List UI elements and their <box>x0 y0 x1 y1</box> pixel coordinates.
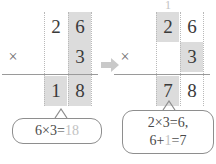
callout-line-text: 2×3=6, <box>148 115 188 130</box>
callout-line-faint: 18 <box>65 123 79 138</box>
multiplier-row: 3 <box>20 42 92 72</box>
multiplicand-tens: 2 <box>44 12 68 42</box>
multiplier-row: 3 <box>132 42 204 72</box>
multiplication-diagram: × 2 6 3 1 8 6×3=18 <box>0 0 216 164</box>
step-ones-panel: × 2 6 3 1 8 6×3=18 <box>4 0 104 164</box>
step-ones-sum-grid: × 2 6 3 1 8 <box>20 12 92 106</box>
product-ones: 8 <box>180 76 204 106</box>
callout-line-1: 2×3=6, <box>123 114 213 132</box>
answer-rule <box>2 74 98 75</box>
callout-pointer <box>54 108 68 118</box>
callout-pointer <box>162 100 176 110</box>
product-ones: 8 <box>68 76 92 106</box>
answer-rule <box>114 74 210 75</box>
multiplier-ones: 3 <box>180 42 204 72</box>
step-ones-callout: 6×3=18 <box>12 118 102 144</box>
multiplier-ones: 3 <box>68 42 92 72</box>
multiplicand-ones: 6 <box>68 12 92 42</box>
callout-line-text: 6+ <box>150 133 165 148</box>
multiplier-tens <box>44 42 68 72</box>
multiplier-tens <box>156 42 180 72</box>
operator-sign: × <box>4 42 22 72</box>
callout-line-text-tail: =7 <box>172 133 187 148</box>
product-tens: 1 <box>44 76 68 106</box>
arrow-right-icon <box>100 55 120 75</box>
multiplicand-row: 2 6 <box>20 12 92 42</box>
callout-line-2: 6+1=7 <box>123 132 213 150</box>
callout-line-faint: 1 <box>165 133 172 148</box>
step-tens-sum-grid: 1 × 2 6 3 7 8 <box>132 12 204 106</box>
multiplicand-tens: 2 <box>156 12 180 42</box>
callout-line-text: 6×3= <box>35 123 65 138</box>
multiplicand-ones: 6 <box>180 12 204 42</box>
multiplicand-row: 2 6 <box>132 12 204 42</box>
product-row: 1 8 <box>20 76 92 106</box>
step-tens-panel: 1 × 2 6 3 7 8 2×3=6, <box>116 0 216 164</box>
step-tens-callout: 2×3=6, 6+1=7 <box>122 110 214 154</box>
